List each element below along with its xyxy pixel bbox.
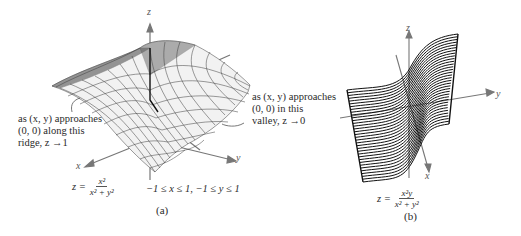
valley-annotation: as (x, y) approaches (0, 0) in this vall… <box>252 91 336 127</box>
equation-b: z = x²y x² + y² <box>377 188 419 209</box>
caption-b: (b) <box>404 210 417 222</box>
equation-b-denominator: x² + y² <box>395 199 419 209</box>
surface-mesh-a <box>52 41 250 172</box>
valley-annotation-line3: valley, z →0 <box>252 115 336 127</box>
z-axis-label-a: z <box>147 6 151 17</box>
equation-a-fraction: x² x² + y² <box>90 176 114 197</box>
surface-plot-b <box>330 0 521 236</box>
ridge-annotation-line1: as (x, y) approaches <box>18 113 102 125</box>
caption-a: (a) <box>156 204 168 216</box>
domain-a: −1 ≤ x ≤ 1, −1 ≤ y ≤ 1 <box>146 183 240 195</box>
valley-annotation-line2: (0, 0) in this <box>252 103 336 115</box>
equation-b-numerator: x²y <box>399 188 414 199</box>
equation-b-fraction: x²y x² + y² <box>395 188 419 209</box>
y-axis-label-a: y <box>236 152 240 163</box>
equation-a: z = x² x² + y² <box>72 176 114 197</box>
equation-a-lhs: z = <box>72 181 86 192</box>
z-axis-label-b: z <box>406 22 410 33</box>
figure-b: z y x z = x²y x² + y² (b) <box>330 0 521 236</box>
equation-b-lhs: z = <box>377 193 391 204</box>
x-axis-label-b: x <box>425 170 429 181</box>
ridge-annotation-line2: (0, 0) along this <box>18 125 102 137</box>
ridge-annotation: as (x, y) approaches (0, 0) along this r… <box>18 113 102 149</box>
equation-a-numerator: x² <box>96 176 107 187</box>
ridge-annotation-line3: ridge, z →1 <box>18 137 102 149</box>
y-axis-label-b: y <box>496 88 500 99</box>
valley-annotation-line1: as (x, y) approaches <box>252 91 336 103</box>
equation-a-denominator: x² + y² <box>90 187 114 197</box>
x-axis-label-a: x <box>76 160 80 171</box>
surface-lines-b <box>347 34 458 182</box>
